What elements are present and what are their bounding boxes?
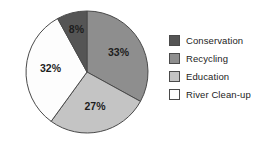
legend-item[interactable]: Conservation [169,31,258,49]
legend-item[interactable]: Recycling [169,49,258,67]
pie-slice-value-label: 32% [40,62,62,74]
legend-color-swatch [169,35,180,46]
legend-color-swatch [169,53,180,64]
legend-item[interactable]: River Clean-up [169,85,258,103]
pie-slice-value-label: 33% [108,46,130,58]
legend-color-swatch [169,71,180,82]
pie-slice-value-label: 8% [69,23,85,35]
pie-slice-value-label: 27% [84,100,106,112]
legend-item-label: Conservation [186,35,243,46]
legend-item-label: River Clean-up [186,89,251,100]
pie-chart-figure: 33%27%32%8% ConservationRecyclingEducati… [0,0,258,147]
chart-legend: ConservationRecyclingEducationRiver Clea… [169,31,258,103]
legend-color-swatch [169,89,180,100]
legend-item-label: Education [186,71,229,82]
legend-item[interactable]: Education [169,67,258,85]
legend-item-label: Recycling [186,53,228,64]
pie-svg: 33%27%32%8% [0,0,160,147]
pie-plot-area: 33%27%32%8% [0,0,160,147]
